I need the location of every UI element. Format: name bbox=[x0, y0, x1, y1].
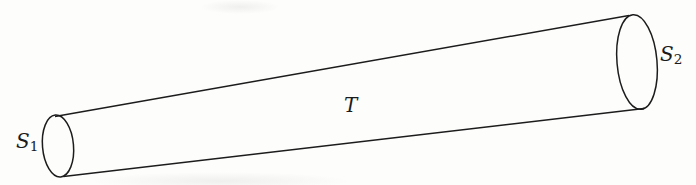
right-face-label: S2 bbox=[660, 44, 682, 67]
left-face-label-base: S bbox=[16, 129, 30, 153]
bottom-edge-line bbox=[64, 109, 645, 177]
left-face-label: S1 bbox=[16, 131, 38, 154]
left-face-label-subscript: 1 bbox=[30, 138, 39, 154]
tube-body-label: T bbox=[344, 95, 357, 115]
top-edge-line bbox=[55, 16, 629, 117]
tube-figure: S1 S2 T bbox=[0, 0, 696, 185]
left-end-ellipse bbox=[40, 114, 76, 178]
right-face-label-base: S bbox=[660, 42, 674, 66]
right-face-label-subscript: 2 bbox=[674, 51, 683, 67]
right-end-ellipse bbox=[613, 13, 661, 111]
